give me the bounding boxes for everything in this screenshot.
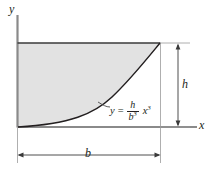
width-arrow-left (18, 153, 24, 158)
height-dimension-label: h (182, 78, 188, 90)
curve-equation-label: y = h b3 x3 (110, 100, 151, 122)
equation-variable-exponent: 3 (148, 103, 151, 110)
height-arrow-top (176, 44, 181, 50)
equation-equals-sign: = (118, 106, 124, 117)
fraction-denominator-exponent: 3 (134, 110, 137, 117)
width-dimension-label: b (85, 147, 91, 159)
fraction-numerator: h (128, 100, 137, 110)
equation-left-side: y (110, 106, 115, 117)
width-arrow-right (155, 153, 161, 158)
y-axis-label: y (9, 3, 14, 15)
equation-fraction: h b3 (127, 100, 139, 122)
fraction-denominator: b3 (127, 112, 139, 122)
figure-drawing (0, 0, 212, 172)
figure-container: y x h b y = h b3 x3 (0, 0, 212, 172)
height-arrow-bottom (176, 121, 181, 127)
equation-variable-term: x3 (143, 106, 151, 117)
x-axis-label: x (199, 119, 204, 131)
